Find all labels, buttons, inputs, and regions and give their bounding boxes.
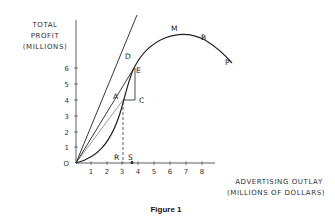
tangent-line — [76, 15, 137, 163]
x-tick-8: 8 — [200, 168, 204, 176]
origin-label: O — [63, 160, 69, 168]
x-axis-label-line-2: (MILLIONS OF DOLLARS) — [227, 189, 325, 197]
y-axis-label-line-1: TOTAL — [31, 21, 57, 29]
y-tick-2: 2 — [65, 129, 69, 137]
x-tick-5: 5 — [152, 168, 156, 176]
x-tick-7: 7 — [184, 168, 188, 176]
point-label-m: M — [171, 24, 177, 33]
x-tick-4: 4 — [136, 168, 141, 176]
y-tick-1: 1 — [65, 144, 69, 152]
x-tick-1: 1 — [89, 168, 93, 176]
x-tick-3: 3 — [120, 168, 124, 176]
line-o-to-e — [76, 68, 134, 163]
chart-figure: TOTAL PROFIT (MILLIONS) 1 2 3 4 5 6 O 1 … — [0, 0, 335, 220]
y-tick-3: 3 — [65, 113, 69, 121]
x-tick-2: 2 — [105, 168, 109, 176]
point-label-r: R — [114, 153, 119, 162]
point-label-e: E — [136, 66, 141, 75]
y-axis-label-line-2: PROFIT — [31, 32, 60, 40]
point-label-c: C — [139, 96, 144, 105]
x-axis-label-line-1: ADVERTISING OUTLAY — [235, 178, 323, 186]
profit-curve — [76, 34, 232, 163]
point-label-d: D — [125, 52, 131, 61]
point-label-a: A — [113, 92, 119, 101]
point-label-b: B — [201, 33, 206, 42]
y-tick-6: 6 — [65, 65, 70, 73]
y-tick-5: 5 — [65, 81, 69, 89]
figure-caption: Figure 1 — [150, 205, 182, 214]
y-axis-label-line-3: (MILLIONS) — [23, 43, 68, 51]
point-label-p: P — [225, 58, 230, 67]
y-tick-4: 4 — [65, 97, 70, 105]
x-tick-6: 6 — [168, 168, 173, 176]
point-label-s: S — [128, 153, 133, 162]
